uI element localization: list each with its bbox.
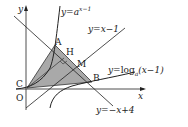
point-h-label: H <box>66 47 74 57</box>
log-func: log <box>121 65 135 75</box>
label-log-curve: y=loga(x−1) <box>107 65 164 77</box>
point-c-label: C <box>16 79 23 89</box>
math-diagram: y x O A H M B C y=ax−1 y=x−1 y=loga(x−1)… <box>0 0 188 127</box>
exp-prefix: y= <box>60 7 74 17</box>
label-exp-curve: y=ax−1 <box>60 5 91 17</box>
origin-label: O <box>16 93 23 103</box>
log-arg: (x−1) <box>138 65 164 75</box>
exp-exponent: x−1 <box>79 5 91 12</box>
log-prefix: y= <box>107 65 121 75</box>
y-axis-arrow <box>24 5 28 11</box>
label-line-x-minus-1: y=x−1 <box>87 24 119 34</box>
point-m-label: M <box>77 59 86 69</box>
y-axis-label: y <box>17 4 24 14</box>
point-a-label: A <box>54 37 62 47</box>
label-line-neg-x-plus-4: y=−x+4 <box>95 105 135 115</box>
x-axis-label: x <box>138 91 143 101</box>
point-b-label: B <box>93 73 100 83</box>
